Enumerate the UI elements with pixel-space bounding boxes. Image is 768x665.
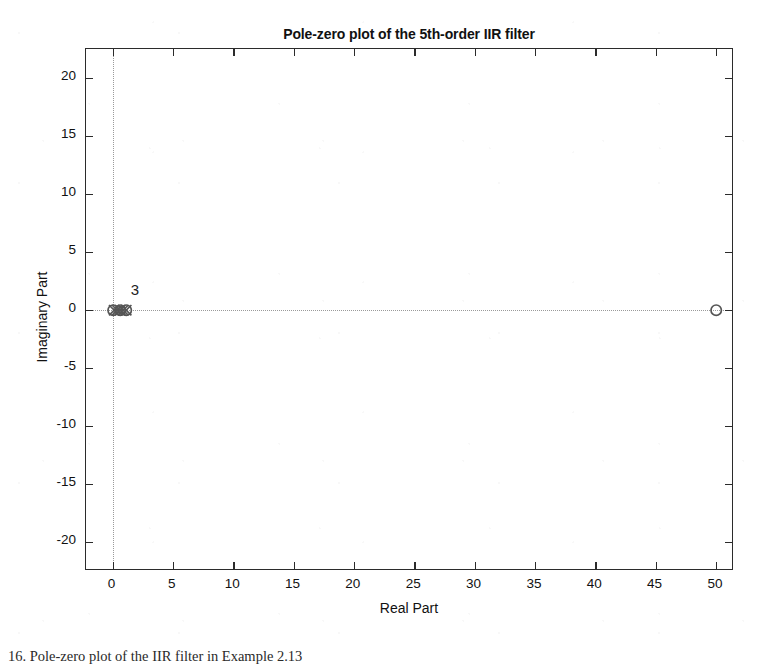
pole-marker (119, 303, 133, 317)
y-tick-mark-right (725, 194, 732, 195)
x-tick-mark (294, 562, 295, 569)
y-tick-mark (86, 368, 93, 369)
x-tick-mark (475, 562, 476, 569)
x-tick-mark (595, 562, 596, 569)
x-tick-label: 5 (142, 576, 202, 591)
x-tick-mark (233, 562, 234, 569)
page-title: Pole-zero plot of the 5th-order IIR filt… (85, 26, 733, 42)
x-tick-mark-top (535, 49, 536, 56)
x-tick-label: 45 (625, 576, 685, 591)
y-tick-mark (86, 78, 93, 79)
x-tick-mark-top (595, 49, 596, 56)
x-axis-label: Real Part (85, 600, 733, 616)
plot-area: 3 (85, 48, 733, 570)
x-tick-label: 40 (564, 576, 624, 591)
y-tick-mark (86, 542, 93, 543)
x-tick-mark-top (354, 49, 355, 56)
y-tick-mark-right (725, 368, 732, 369)
y-tick-mark (86, 426, 93, 427)
x-tick-mark-top (233, 49, 234, 56)
y-tick-label: -15 (20, 474, 76, 489)
y-tick-mark-right (725, 136, 732, 137)
y-tick-mark-right (725, 542, 732, 543)
x-tick-mark-top (414, 49, 415, 56)
x-tick-mark-top (294, 49, 295, 56)
y-tick-mark-right (725, 78, 732, 79)
x-tick-mark (716, 562, 717, 569)
x-tick-mark-top (656, 49, 657, 56)
y-tick-mark (86, 194, 93, 195)
x-tick-mark-top (173, 49, 174, 56)
x-tick-mark (113, 562, 114, 569)
x-tick-label: 25 (383, 576, 443, 591)
y-tick-mark-right (725, 484, 732, 485)
y-tick-mark (86, 310, 93, 311)
x-tick-label: 15 (263, 576, 323, 591)
x-tick-mark-top (113, 49, 114, 56)
multiplicity-label: 3 (131, 281, 139, 298)
x-tick-mark (354, 562, 355, 569)
y-tick-label: 10 (20, 184, 76, 199)
y-tick-label: -20 (20, 532, 76, 547)
x-tick-mark-top (475, 49, 476, 56)
y-tick-mark (86, 252, 93, 253)
zero-marker (709, 303, 723, 317)
y-tick-mark-right (725, 310, 732, 311)
x-tick-label: 30 (444, 576, 504, 591)
y-tick-mark (86, 136, 93, 137)
y-tick-mark-right (725, 426, 732, 427)
x-tick-mark-top (716, 49, 717, 56)
x-tick-label: 50 (685, 576, 745, 591)
x-tick-label: 20 (323, 576, 383, 591)
y-tick-label: -10 (20, 416, 76, 431)
x-tick-mark (173, 562, 174, 569)
y-tick-label: 20 (20, 68, 76, 83)
x-tick-label: 0 (82, 576, 142, 591)
x-tick-mark (535, 562, 536, 569)
x-tick-label: 10 (202, 576, 262, 591)
x-tick-mark (656, 562, 657, 569)
y-tick-mark-right (725, 252, 732, 253)
y-axis-label: Imaginary Part (34, 237, 50, 397)
x-tick-label: 35 (504, 576, 564, 591)
x-tick-mark (414, 562, 415, 569)
figure-caption: 16. Pole-zero plot of the IIR filter in … (8, 648, 760, 665)
y-tick-label: 15 (20, 126, 76, 141)
y-tick-mark (86, 484, 93, 485)
gridline-real-axis (86, 310, 732, 311)
